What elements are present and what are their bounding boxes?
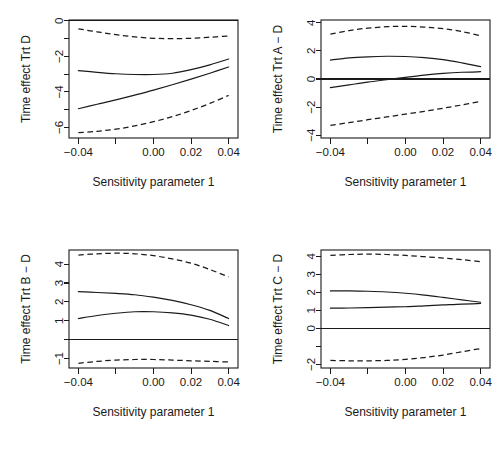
x-axis-title: Sensitivity parameter 1 bbox=[344, 405, 466, 419]
curve-lower-confidence-bound bbox=[78, 95, 228, 132]
x-tick-label: 0.04 bbox=[217, 146, 240, 158]
plot-panel-bottom-left: −0.040.000.020.044321−1Time effect Trt B… bbox=[0, 230, 251, 460]
y-tick-label: −4 bbox=[305, 128, 317, 142]
x-tick-label: 0.00 bbox=[394, 146, 416, 158]
y-tick-label: 0 bbox=[305, 76, 317, 82]
x-tick-label: 0.02 bbox=[432, 376, 454, 388]
curve-lower-confidence-bound bbox=[330, 101, 480, 125]
curve-estimate-lower bbox=[330, 72, 480, 88]
y-axis-title: Time effect Trt B − D bbox=[19, 254, 33, 364]
x-tick-label: 0.04 bbox=[469, 146, 492, 158]
y-axis-title: Time effect Trt A − D bbox=[271, 24, 285, 133]
sensitivity-analysis-figure: −0.040.000.020.040−2−4−6Time effect Trt … bbox=[0, 0, 503, 460]
x-axis-title: Sensitivity parameter 1 bbox=[344, 175, 466, 189]
y-axis-title: Time effect Trt C − D bbox=[271, 253, 285, 364]
x-tick-label: 0.04 bbox=[469, 376, 492, 388]
y-tick-label: 2 bbox=[305, 48, 317, 54]
x-tick-label: 0.00 bbox=[142, 376, 164, 388]
curve-lower-confidence-bound bbox=[330, 349, 480, 361]
y-tick-label: −2 bbox=[53, 50, 65, 63]
plot-box bbox=[69, 250, 238, 368]
curve-upper-confidence-bound bbox=[78, 29, 228, 39]
x-axis-title: Sensitivity parameter 1 bbox=[92, 405, 214, 419]
y-tick-label: 4 bbox=[53, 260, 65, 267]
curve-estimate-lower bbox=[78, 312, 228, 326]
x-tick-label: 0.02 bbox=[180, 146, 202, 158]
x-tick-label: −0.04 bbox=[64, 376, 94, 388]
y-tick-label: 0 bbox=[53, 18, 65, 24]
y-tick-label: 4 bbox=[305, 19, 317, 26]
curve-estimate-upper bbox=[78, 59, 228, 75]
y-tick-label: 1 bbox=[53, 318, 65, 324]
plot-box bbox=[321, 250, 490, 368]
y-axis-title: Time effect Trt D bbox=[19, 35, 33, 123]
x-tick-label: 0.04 bbox=[217, 376, 240, 388]
curve-lower-confidence-bound bbox=[78, 359, 228, 363]
curve-upper-confidence-bound bbox=[78, 253, 228, 277]
curve-upper-confidence-bound bbox=[330, 26, 480, 35]
y-tick-label: 3 bbox=[53, 280, 65, 286]
plot-panel-bottom-right: −0.040.000.020.0443210−2Time effect Trt … bbox=[252, 230, 503, 460]
y-tick-label: 0 bbox=[305, 325, 317, 331]
x-tick-label: −0.04 bbox=[316, 376, 346, 388]
y-tick-label: 2 bbox=[53, 299, 65, 305]
curve-estimate-upper bbox=[330, 56, 480, 66]
curve-estimate-lower bbox=[78, 67, 228, 109]
plot-panel-top-left: −0.040.000.020.040−2−4−6Time effect Trt … bbox=[0, 0, 251, 230]
x-tick-label: 0.02 bbox=[432, 146, 454, 158]
y-tick-label: −2 bbox=[305, 101, 317, 114]
x-tick-label: −0.04 bbox=[64, 146, 94, 158]
curve-estimate-lower bbox=[330, 304, 480, 309]
y-tick-label: 2 bbox=[305, 289, 317, 295]
x-tick-label: 0.00 bbox=[394, 376, 416, 388]
y-tick-label: −4 bbox=[53, 85, 65, 99]
y-tick-label: 4 bbox=[305, 253, 317, 260]
y-tick-label: −6 bbox=[53, 121, 65, 134]
x-tick-label: −0.04 bbox=[316, 146, 346, 158]
y-tick-label: 3 bbox=[305, 271, 317, 277]
curve-estimate-upper bbox=[330, 291, 480, 302]
y-tick-label: −1 bbox=[53, 352, 65, 365]
y-tick-label: −2 bbox=[305, 358, 317, 371]
y-tick-label: 1 bbox=[305, 307, 317, 313]
plot-panel-top-right: −0.040.000.020.04420−2−4Time effect Trt … bbox=[252, 0, 503, 230]
curve-upper-confidence-bound bbox=[330, 254, 480, 262]
x-tick-label: 0.02 bbox=[180, 376, 202, 388]
x-axis-title: Sensitivity parameter 1 bbox=[92, 175, 214, 189]
x-tick-label: 0.00 bbox=[142, 146, 164, 158]
